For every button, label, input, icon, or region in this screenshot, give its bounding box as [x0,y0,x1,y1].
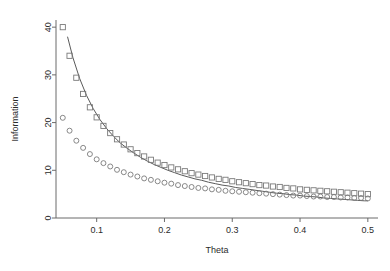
data-point-circle [67,128,72,133]
data-point-square [257,182,262,187]
data-point-circle [182,184,187,189]
data-point-square [162,162,167,167]
x-tick-label: 0.1 [90,225,103,235]
data-point-square [203,173,208,178]
x-tick-label: 0.5 [362,225,375,235]
data-point-circle [318,194,323,199]
data-point-circle [257,191,262,196]
data-point-circle [223,188,228,193]
data-point-circle [60,115,65,120]
data-point-circle [230,189,235,194]
data-point-circle [209,187,214,192]
data-point-circle [128,172,133,177]
axis-labels-group: 0102030400.10.20.30.40.5ThetaInformation [10,22,374,255]
data-point-square [277,184,282,189]
data-point-circle [101,161,106,166]
y-axis-title: Information [10,96,20,141]
data-point-square [182,169,187,174]
data-point-square [60,25,65,30]
data-point-circle [74,138,79,143]
series-squares-group [60,25,370,197]
data-point-square [189,171,194,176]
y-tick-label: 20 [43,118,53,128]
data-point-circle [325,195,330,200]
y-tick-label: 40 [43,22,53,32]
data-point-circle [176,183,181,188]
data-point-square [223,177,228,182]
data-point-circle [216,187,221,192]
data-point-square [284,185,289,190]
data-point-square [304,187,309,192]
data-point-circle [155,179,160,184]
x-axis-title: Theta [205,245,228,255]
data-point-square [331,189,336,194]
data-point-circle [250,190,255,195]
data-point-square [311,188,316,193]
chart-plot-area: 0102030400.10.20.30.40.5ThetaInformation [0,0,390,271]
data-point-square [209,175,214,180]
data-point-circle [108,164,113,169]
data-point-circle [81,145,86,150]
y-tick-label: 30 [43,70,53,80]
data-point-square [338,190,343,195]
x-tick-label: 0.2 [158,225,171,235]
data-point-square [175,167,180,172]
x-tick-label: 0.4 [294,225,307,235]
data-point-circle [237,189,242,194]
x-tick-label: 0.3 [226,225,239,235]
data-point-square [67,53,72,58]
data-point-circle [87,152,92,157]
data-point-square [74,75,79,80]
data-point-square [297,187,302,192]
data-point-square [155,160,160,165]
data-point-square [291,186,296,191]
data-point-circle [277,192,282,197]
data-point-circle [291,193,296,198]
data-point-square [243,181,248,186]
data-point-square [325,189,330,194]
data-point-square [250,182,255,187]
data-point-square [169,165,174,170]
data-point-circle [135,174,140,179]
data-point-circle [115,167,120,172]
data-point-square [318,188,323,193]
data-point-circle [162,180,167,185]
data-point-square [352,191,357,196]
data-point-circle [189,184,194,189]
data-point-circle [203,186,208,191]
data-point-circle [169,181,174,186]
data-point-circle [284,193,289,198]
y-tick-label: 10 [43,165,53,175]
data-point-square [216,176,221,181]
data-point-square [230,179,235,184]
data-point-square [345,190,350,195]
y-tick-label: 0 [43,215,53,220]
data-point-circle [142,176,147,181]
data-point-square [236,180,241,185]
data-point-circle [121,170,126,175]
data-point-square [264,183,269,188]
data-point-circle [94,157,99,162]
information-theta-chart: 0102030400.10.20.30.40.5ThetaInformation [0,0,390,271]
data-point-square [270,184,275,189]
data-point-circle [148,177,153,182]
data-point-circle [196,185,201,190]
data-point-circle [243,190,248,195]
data-point-square [196,172,201,177]
